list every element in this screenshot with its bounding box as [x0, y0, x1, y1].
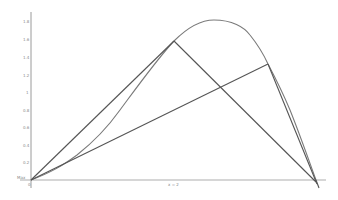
- chord-origin-to-p1: [31, 41, 174, 180]
- origin-label: Max: [17, 175, 26, 180]
- y-tick-label: 1.4: [23, 55, 30, 60]
- y-tick-label: 0.4: [23, 143, 30, 148]
- y-tick-label: 0.6: [23, 125, 30, 130]
- chord-p2-to-end: [268, 64, 317, 184]
- chord-origin-to-p2: [31, 64, 268, 180]
- y-tick-labels: 1.8 1.6 1.4 1.2 1 0.8 0.6 0.4 0.2 Max 0: [17, 19, 31, 188]
- x-axis-label: x = 2: [168, 182, 179, 187]
- chord-p1-to-end: [174, 41, 316, 182]
- y-tick-label: 1.8: [23, 19, 30, 24]
- y-tick-label: 1: [26, 90, 29, 95]
- function-plot: 1.8 1.6 1.4 1.2 1 0.8 0.6 0.4 0.2 Max 0 …: [0, 0, 338, 200]
- y-tick-label: 1.2: [23, 73, 30, 78]
- y-tick-label: 0.2: [23, 160, 30, 165]
- y-tick-label: 1.6: [23, 37, 30, 42]
- y-tick-label: 0.8: [23, 108, 30, 113]
- function-curve: [31, 20, 316, 180]
